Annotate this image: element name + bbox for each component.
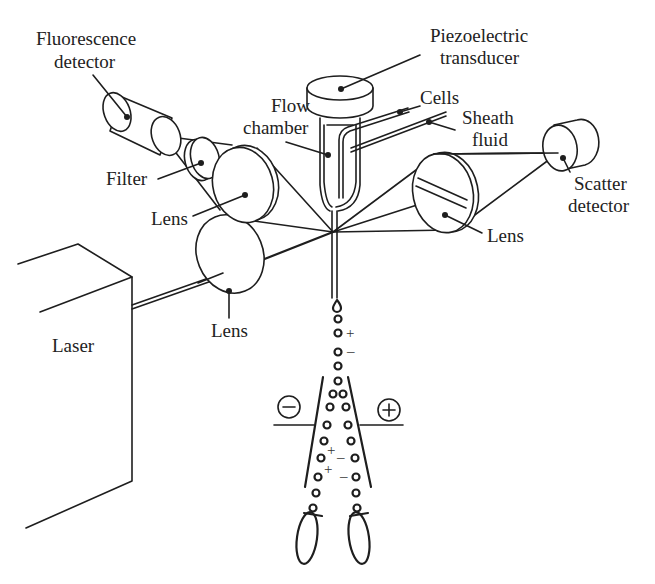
plus-sign-left-2: + [324,461,332,477]
transducer-label-line1: Piezoelectric [430,25,528,46]
plus-sign: + [346,325,354,341]
fluorescence-lens-label: Lens [151,208,188,229]
minus-sign-right-1: – [336,449,345,465]
transducer-label-line2: transducer [440,47,520,68]
collection-tubes [293,505,372,566]
sheath-label-line1: Sheath [462,107,514,128]
flow-chamber-label-line2: chamber [243,117,309,138]
inlet-labels: Cells Sheath fluid [397,87,514,150]
piezoelectric-transducer: Piezoelectric transducer [307,25,528,118]
scatter-detector-label-line1: Scatter [574,173,627,194]
laser-box: Laser [18,244,132,528]
laser-lens-label: Lens [211,320,248,341]
laser-lens: Lens [184,205,275,341]
filter-label: Filter [106,168,148,189]
laser-label: Laser [52,335,95,356]
scatter-detector-label-line2: detector [568,195,630,216]
sheath-label-line2: fluid [472,129,508,150]
minus-sign-right-2: – [339,468,348,484]
fluorescence-label-line2: detector [54,51,116,72]
fluorescence-detector: Fluorescence detector [36,28,186,160]
minus-sign: – [346,343,355,359]
scatter-lens-label: Lens [487,225,524,246]
flow-chamber-label-line1: Flow [271,95,310,116]
fluorescence-label-line1: Fluorescence [36,28,136,49]
cells-label: Cells [420,87,459,108]
flow-cytometer-diagram: Laser Lens Fluorescence detector Filter … [0,0,655,584]
plus-sign-left-1: + [327,442,335,458]
